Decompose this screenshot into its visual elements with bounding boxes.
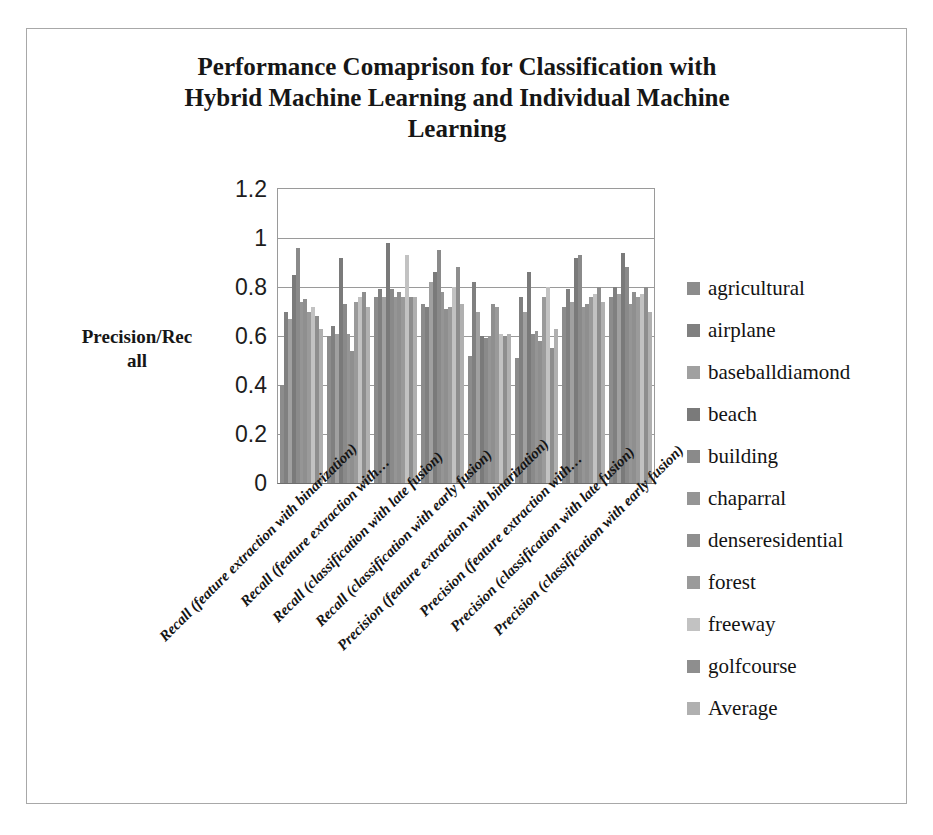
legend-swatch-icon xyxy=(687,660,700,673)
legend-item-label: building xyxy=(708,444,778,469)
legend-item-label: forest xyxy=(708,570,756,595)
figure-frame: Performance Comaprison for Classificatio… xyxy=(26,28,907,804)
y-axis-title-line-2: all xyxy=(57,349,217,373)
bar xyxy=(554,329,558,483)
legend-item[interactable]: freeway xyxy=(687,603,933,645)
legend-item-label: Average xyxy=(708,696,778,721)
bar-groups xyxy=(278,189,654,483)
legend-swatch-icon xyxy=(687,450,700,463)
chart-title: Performance Comaprison for Classificatio… xyxy=(147,51,767,144)
legend-swatch-icon xyxy=(687,366,700,379)
bar xyxy=(413,297,417,483)
legend-swatch-icon xyxy=(687,408,700,421)
bar xyxy=(601,302,605,483)
bar-group xyxy=(560,189,607,483)
y-axis-tick-label: 1.2 xyxy=(235,176,267,203)
legend-item-label: chaparral xyxy=(708,486,786,511)
y-axis-tick-label: 0.4 xyxy=(235,372,267,399)
legend-item-label: baseballdiamond xyxy=(708,360,850,385)
legend-item-label: golfcourse xyxy=(708,654,797,679)
legend-swatch-icon xyxy=(687,702,700,715)
y-axis-title-line-1: Precision/Rec xyxy=(57,325,217,349)
chart-title-line-2: Hybrid Machine Learning and Individual M… xyxy=(147,82,767,113)
bar xyxy=(319,329,323,483)
legend-item[interactable]: Average xyxy=(687,687,933,729)
legend-item-label: freeway xyxy=(708,612,776,637)
legend-item[interactable]: baseballdiamond xyxy=(687,351,933,393)
bar-group xyxy=(607,189,654,483)
legend-swatch-icon xyxy=(687,534,700,547)
y-axis-tick-label: 0.8 xyxy=(235,274,267,301)
chart-title-line-1: Performance Comaprison for Classificatio… xyxy=(147,51,767,82)
bar-group xyxy=(419,189,466,483)
legend-item[interactable]: building xyxy=(687,435,933,477)
legend-item[interactable]: beach xyxy=(687,393,933,435)
bar xyxy=(648,312,652,484)
y-axis-tick-label: 0 xyxy=(254,470,267,497)
y-axis-tick-label: 1 xyxy=(254,225,267,252)
y-axis-tick-label: 0.2 xyxy=(235,421,267,448)
bar-group xyxy=(372,189,419,483)
legend-item-label: beach xyxy=(708,402,757,427)
legend-item[interactable]: agricultural xyxy=(687,267,933,309)
x-axis-labels: Recall (feature extraction with binariza… xyxy=(277,484,653,784)
bar xyxy=(366,307,370,483)
legend-item-label: denseresidential xyxy=(708,528,843,553)
y-axis-title: Precision/Rec all xyxy=(57,325,217,373)
bar-group xyxy=(278,189,325,483)
legend: agriculturalairplanebaseballdiamondbeach… xyxy=(687,267,933,729)
legend-item[interactable]: chaparral xyxy=(687,477,933,519)
legend-item[interactable]: denseresidential xyxy=(687,519,933,561)
legend-item[interactable]: golfcourse xyxy=(687,645,933,687)
legend-swatch-icon xyxy=(687,282,700,295)
bar xyxy=(507,334,511,483)
legend-swatch-icon xyxy=(687,492,700,505)
chart-title-line-3: Learning xyxy=(147,113,767,144)
legend-swatch-icon xyxy=(687,324,700,337)
legend-swatch-icon xyxy=(687,576,700,589)
legend-item[interactable]: forest xyxy=(687,561,933,603)
bar-group xyxy=(466,189,513,483)
bar xyxy=(460,304,464,483)
plot-area: 00.20.40.60.811.2 xyxy=(277,188,655,484)
legend-item-label: airplane xyxy=(708,318,776,343)
legend-item-label: agricultural xyxy=(708,276,805,301)
y-axis-tick-label: 0.6 xyxy=(235,323,267,350)
legend-swatch-icon xyxy=(687,618,700,631)
legend-item[interactable]: airplane xyxy=(687,309,933,351)
